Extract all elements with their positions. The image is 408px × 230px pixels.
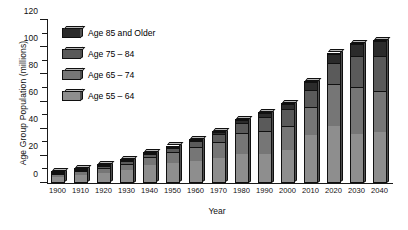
x-tick-label: 1960 xyxy=(187,186,204,195)
bar-1950 xyxy=(166,146,180,183)
y-tick-major xyxy=(40,101,47,102)
bar-stack xyxy=(212,131,226,183)
bar-segment xyxy=(144,157,156,165)
y-tick-label: 20 xyxy=(29,141,38,151)
bar-side-face xyxy=(156,149,159,183)
bar-side-face xyxy=(294,100,297,183)
x-tick-label: 2000 xyxy=(279,186,296,195)
chart-legend: Age 85 and OlderAge 75 – 84Age 65 – 74Ag… xyxy=(60,24,210,108)
bar-top-face xyxy=(351,40,368,43)
legend-swatch-top-face xyxy=(64,89,86,92)
bar-stack xyxy=(350,43,364,183)
bar-segment xyxy=(374,132,386,182)
x-tick-label: 1920 xyxy=(95,186,112,195)
bar-top-face xyxy=(121,156,138,159)
bar-segment xyxy=(328,84,340,125)
legend-label: Age 55 – 64 xyxy=(88,91,134,101)
x-tick-label: 1940 xyxy=(141,186,158,195)
x-tick-label: 1930 xyxy=(118,186,135,195)
bar-top-face xyxy=(190,136,207,139)
bar-1930 xyxy=(120,159,134,183)
bar-segment xyxy=(236,154,248,182)
bar-segment xyxy=(190,147,202,161)
bar-segment xyxy=(213,158,225,182)
y-tick-major xyxy=(40,19,47,20)
bar-segment xyxy=(121,170,133,182)
bar-segment xyxy=(282,150,294,182)
bar-segment xyxy=(213,142,225,158)
bar-stack xyxy=(143,152,157,183)
y-tick-label: 40 xyxy=(29,114,38,124)
y-tick-label: 0 xyxy=(33,169,38,179)
chart-container: Age Group Population (millions) Year 020… xyxy=(0,0,408,230)
legend-item: Age 75 – 84 xyxy=(60,45,210,63)
bar-segment xyxy=(167,163,179,182)
bar-stack xyxy=(189,139,203,183)
bar-side-face xyxy=(179,142,182,182)
bar-side-face xyxy=(225,128,228,183)
bar-stack xyxy=(373,40,387,183)
legend-swatch-top-face xyxy=(64,26,86,29)
bar-segment xyxy=(52,177,64,182)
y-tick-major xyxy=(40,182,47,183)
bar-segment xyxy=(328,63,340,84)
bar-segment xyxy=(98,173,110,182)
bar-stack xyxy=(166,146,180,183)
bar-2000 xyxy=(281,103,295,183)
x-tick-label: 1990 xyxy=(256,186,273,195)
bar-top-face xyxy=(282,100,299,103)
bar-top-face xyxy=(305,78,322,81)
y-tick-minor xyxy=(42,60,47,61)
bar-segment xyxy=(374,41,386,56)
bar-1940 xyxy=(143,152,157,183)
bar-side-face xyxy=(133,156,136,183)
bar-1990 xyxy=(258,112,272,183)
y-tick-label: 80 xyxy=(29,60,38,70)
bar-top-face xyxy=(213,128,230,131)
bar-2020 xyxy=(327,53,341,183)
legend-label: Age 85 and Older xyxy=(88,28,155,38)
bar-side-face xyxy=(271,109,274,182)
bar-stack xyxy=(235,119,249,183)
y-tick-major xyxy=(40,46,47,47)
bar-segment xyxy=(305,135,317,182)
bar-segment xyxy=(282,109,294,125)
bar-stack xyxy=(327,53,341,183)
x-axis-line xyxy=(47,183,393,184)
y-tick-minor xyxy=(42,141,47,142)
bar-segment xyxy=(374,91,386,133)
y-tick-label: 120 xyxy=(24,6,38,16)
bar-side-face xyxy=(248,116,251,183)
y-tick-minor xyxy=(42,33,47,34)
legend-label: Age 75 – 84 xyxy=(88,49,134,59)
x-tick-label: 2020 xyxy=(325,186,342,195)
x-tick-label: 1910 xyxy=(72,186,89,195)
legend-swatch-top-face xyxy=(64,47,86,50)
legend-swatch xyxy=(62,70,81,80)
bar-stack xyxy=(304,81,318,183)
bar-1900 xyxy=(51,171,65,183)
bar-segment xyxy=(374,56,386,91)
bar-segment xyxy=(259,117,271,130)
y-tick-label: 60 xyxy=(29,87,38,97)
legend-label: Age 65 – 74 xyxy=(88,70,134,80)
bar-1910 xyxy=(74,168,88,183)
bar-2030 xyxy=(350,43,364,183)
bar-segment xyxy=(236,123,248,133)
bar-segment xyxy=(305,90,317,107)
bar-segment xyxy=(351,44,363,56)
bar-segment xyxy=(213,134,225,142)
bar-side-face xyxy=(317,78,320,183)
bar-2040 xyxy=(373,40,387,183)
bar-top-face xyxy=(75,165,92,168)
bar-segment xyxy=(259,131,271,155)
legend-swatch xyxy=(62,91,81,101)
y-tick-major xyxy=(40,155,47,156)
bar-stack xyxy=(51,171,65,183)
bar-stack xyxy=(281,103,295,183)
bar-segment xyxy=(328,54,340,63)
bar-segment xyxy=(305,82,317,90)
bar-top-face xyxy=(52,168,69,171)
bar-stack xyxy=(74,168,88,183)
x-tick-label: 1970 xyxy=(210,186,227,195)
